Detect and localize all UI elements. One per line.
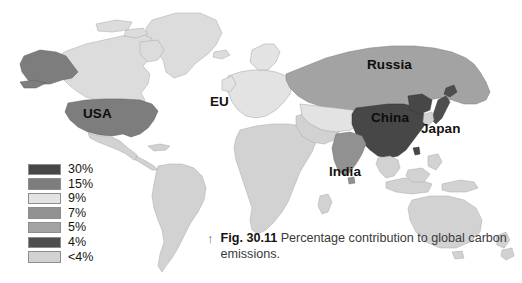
region-southeast-asia [376, 156, 400, 178]
region-europe [228, 70, 292, 118]
region-caribbean [148, 144, 170, 151]
caption-text: Fig. 30.11 Percentage contribution to gl… [221, 231, 508, 262]
region-iceland [213, 50, 230, 59]
region-borneo [406, 168, 430, 182]
region-madagascar [318, 194, 332, 214]
legend-swatch-30 [28, 164, 61, 176]
legend-item: 15% [28, 177, 93, 192]
legend-item: 30% [28, 162, 93, 177]
region-new-guinea [442, 180, 478, 192]
region-scandinavia [250, 44, 280, 70]
map-legend: 30% 15% 9% 7% 5% 4% <4% [28, 162, 93, 264]
legend-label-5: 5% [68, 221, 86, 234]
legend-label-15: 15% [68, 178, 93, 191]
figure-carbon-emissions-map: .c-base { fill:#d2d2d2; stroke:#a8a8a8; … [0, 0, 522, 283]
up-arrow-icon: ↑ [207, 231, 214, 246]
legend-swatch-4 [28, 237, 61, 249]
region-mexico [88, 133, 140, 160]
region-taiwan [413, 147, 420, 155]
legend-item: 9% [28, 191, 93, 206]
legend-swatch-9 [28, 193, 61, 205]
legend-label-9: 9% [68, 192, 86, 205]
legend-label-4: 4% [68, 236, 86, 249]
region-india [332, 132, 366, 176]
legend-swatch-7 [28, 207, 61, 219]
legend-swatch-5 [28, 222, 61, 234]
region-sri-lanka [348, 177, 355, 184]
legend-label-7: 7% [68, 207, 86, 220]
legend-item: 5% [28, 220, 93, 235]
region-usa [65, 99, 158, 137]
figure-caption: ↑ Fig. 30.11 Percentage contribution to … [207, 231, 507, 262]
legend-swatch-under4 [28, 251, 61, 263]
region-central-america [136, 156, 158, 170]
caption-line-1: Percentage contribution [281, 231, 414, 245]
region-africa [234, 124, 316, 234]
legend-item: <4% [28, 250, 93, 265]
region-russia [286, 46, 490, 112]
legend-item: 4% [28, 235, 93, 250]
legend-swatch-15 [28, 178, 61, 190]
region-south-america [152, 164, 206, 272]
region-philippines [428, 154, 442, 170]
region-japan [432, 96, 450, 124]
legend-label-30: 30% [68, 163, 93, 176]
legend-label-under4: <4% [68, 251, 93, 264]
caption-figure-number: Fig. 30.11 [221, 231, 278, 245]
legend-item: 7% [28, 206, 93, 221]
